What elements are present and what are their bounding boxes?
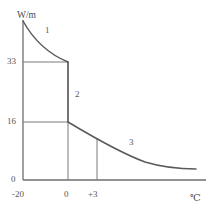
curve-label-3: 3: [129, 138, 134, 147]
y-axis-title: W/m: [17, 11, 36, 21]
chart-figure: W/m ℃ 33 16 0 -20 0 +3 1 2 3: [0, 0, 211, 216]
y-tick-label-33: 33: [7, 57, 16, 66]
x-tick-label-plus-3: +3: [88, 190, 98, 199]
curve-label-2: 2: [75, 90, 80, 99]
curve-label-1: 1: [45, 26, 50, 35]
y-tick-label-16: 16: [7, 117, 16, 126]
x-axis-title: ℃: [190, 194, 201, 204]
x-tick-label-minus-20: -20: [12, 190, 24, 199]
x-tick-label-0: 0: [64, 190, 69, 199]
chart-plot-area: [0, 0, 211, 216]
y-tick-label-0: 0: [11, 175, 16, 184]
